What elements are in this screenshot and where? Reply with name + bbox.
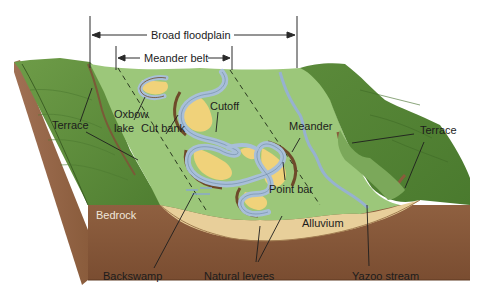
alluvium-label: Alluvium — [302, 217, 344, 229]
bedrock-label: Bedrock — [96, 209, 136, 221]
terrace-right-label: Terrace — [420, 124, 457, 136]
meander-belt-label: Meander belt — [144, 52, 208, 64]
point-bar-label: Point bar — [269, 183, 313, 195]
meander-label: Meander — [289, 120, 332, 132]
natural-levees-label: Natural levees — [204, 270, 274, 282]
oxbow-lake-label-line2: lake — [114, 122, 134, 134]
floodplain-diagram: Broad floodplain Meander belt Terrace Ox… — [0, 0, 491, 295]
terrace-left-label: Terrace — [52, 119, 89, 131]
broad-floodplain-label: Broad floodplain — [151, 29, 231, 41]
cutoff-label: Cutoff — [210, 100, 239, 112]
cut-bank-label: Cut bank — [141, 122, 185, 134]
oxbow-lake-label-line1: Oxbow — [114, 108, 148, 120]
backswamp-label: Backswamp — [103, 270, 162, 282]
floodplain-illustration — [0, 0, 491, 295]
yazoo-stream-label: Yazoo stream — [352, 270, 419, 282]
